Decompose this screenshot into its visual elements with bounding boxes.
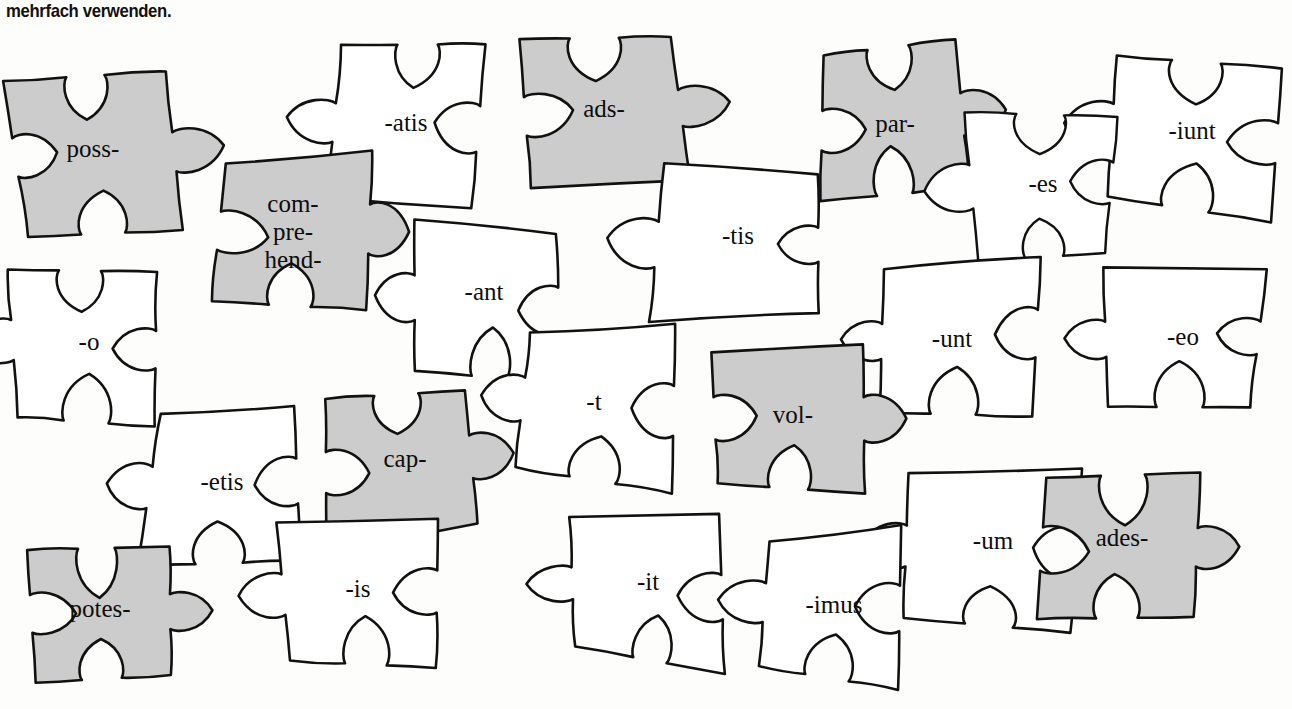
puzzle-piece-label: -tis: [722, 222, 754, 249]
puzzle-worksheet-page: mehrfach verwenden. poss--atisads-par--i…: [0, 0, 1292, 709]
puzzle-piece-label: -iunt: [1168, 117, 1215, 144]
puzzle-piece-label: cap-: [383, 445, 426, 472]
puzzle-piece-shape-ending[interactable]: [1062, 262, 1267, 412]
puzzle-board: poss--atisads-par--iuntcom-pre-hend--tis…: [0, 0, 1292, 709]
puzzle-piece-label: -eo: [1167, 323, 1199, 350]
puzzle-piece[interactable]: [1062, 262, 1267, 412]
puzzle-piece-label: com-pre-hend-: [265, 190, 322, 273]
puzzle-piece-label: -ant: [465, 278, 504, 305]
puzzle-piece-shape-ending[interactable]: [522, 504, 733, 674]
puzzle-piece-label: -is: [346, 575, 371, 602]
puzzle-piece-label: ades-: [1096, 524, 1149, 551]
puzzle-piece-label: potes-: [69, 595, 130, 622]
puzzle-piece-label: ads-: [583, 95, 625, 122]
puzzle-piece-label: poss-: [67, 135, 120, 162]
puzzle-piece-shape-ending[interactable]: [604, 161, 823, 328]
puzzle-piece-label: -unt: [932, 325, 972, 352]
puzzle-piece-label: -es: [1028, 170, 1057, 197]
puzzle-piece-label: -um: [973, 527, 1014, 554]
puzzle-piece-label: vol-: [773, 401, 813, 428]
puzzle-piece[interactable]: [522, 504, 733, 674]
puzzle-piece-label: par-: [875, 110, 915, 137]
puzzle-piece-label: -o: [79, 328, 100, 355]
puzzle-piece[interactable]: [604, 161, 823, 328]
puzzle-piece-label: -imus: [806, 591, 863, 618]
puzzle-piece-label: -atis: [384, 109, 427, 136]
puzzle-piece-label: -it: [637, 568, 659, 595]
puzzle-piece-label: -etis: [200, 468, 243, 495]
puzzle-piece-label: -t: [586, 388, 601, 415]
